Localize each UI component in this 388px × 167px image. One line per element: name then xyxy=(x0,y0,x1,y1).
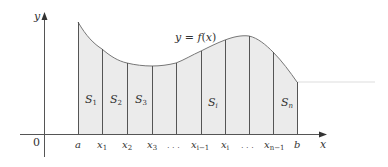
x-axis-arrow-icon xyxy=(319,132,327,138)
origin-label: 0 xyxy=(33,136,40,149)
y-axis-label: y xyxy=(33,10,41,23)
tick-label-ellipsis-2: . . . xyxy=(241,141,254,150)
tick-label-a: a xyxy=(75,139,81,150)
area-strips-diagram: y x 0 y = f(x) a x1 x2 x3 . . . xi−1 xi … xyxy=(0,0,388,167)
tick-label-ellipsis-1: . . . xyxy=(167,141,180,150)
tick-labels: a x1 x2 x3 . . . xi−1 xi . . . xn−1 b xyxy=(75,139,300,152)
tick-label-x-i-minus-1: xi−1 xyxy=(191,139,209,152)
tick-label-x-n-minus-1: xn−1 xyxy=(264,139,284,152)
tick-label-x3: x3 xyxy=(147,139,157,152)
tick-label-x2: x2 xyxy=(122,139,132,152)
y-axis-arrow-icon xyxy=(42,12,48,20)
tick-label-x-i: xi xyxy=(221,139,230,152)
tick-label-b: b xyxy=(294,139,300,150)
tick-label-x1: x1 xyxy=(97,139,107,152)
x-axis-label: x xyxy=(320,138,327,151)
curve-label: y = f(x) xyxy=(174,31,216,44)
